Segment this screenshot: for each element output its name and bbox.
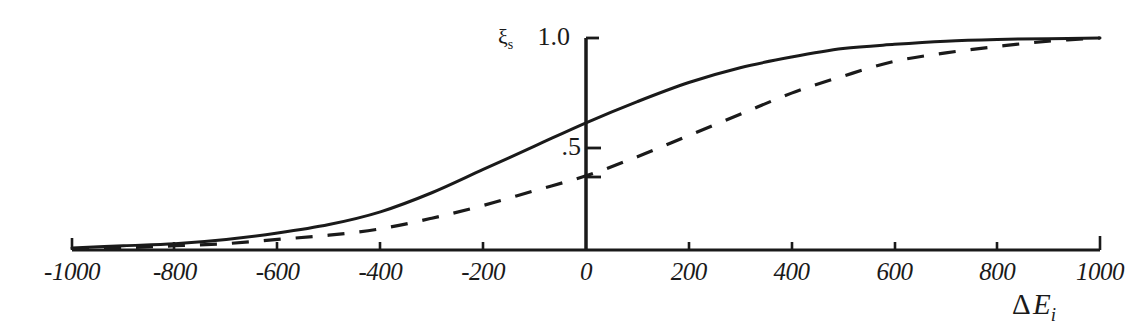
x-tick-label: -1000 <box>22 258 122 286</box>
axes-group <box>72 38 1100 250</box>
x-tick-label: -200 <box>433 258 533 286</box>
x-tick-label: 800 <box>947 258 1047 286</box>
x-tick-label: 400 <box>742 258 842 286</box>
x-tick-label: 200 <box>639 258 739 286</box>
x-axis-subscript: i <box>1051 304 1056 325</box>
x-axis-delta-symbol: Δ <box>1012 288 1031 320</box>
x-tick-label: -600 <box>228 258 328 286</box>
x-tick-label: 600 <box>844 258 944 286</box>
x-tick-label: -400 <box>330 258 430 286</box>
x-tick-label: 0 <box>536 258 636 286</box>
figure-container: ξs Δ Ei -1000-800-600-400-20002004006008… <box>0 0 1141 333</box>
x-axis-title: Δ Ei <box>1012 288 1056 326</box>
y-tick-label: 1.0 <box>522 22 570 52</box>
y-axis-symbol: ξ <box>498 24 508 49</box>
y-tick-marks <box>586 38 601 177</box>
y-axis-title: ξs <box>498 24 513 53</box>
x-axis-variable: E <box>1033 288 1051 320</box>
x-tick-label: 1000 <box>1050 258 1141 286</box>
x-tick-label: -800 <box>125 258 225 286</box>
y-tick-label: .5 <box>533 132 581 162</box>
y-axis-subscript: s <box>508 37 513 52</box>
